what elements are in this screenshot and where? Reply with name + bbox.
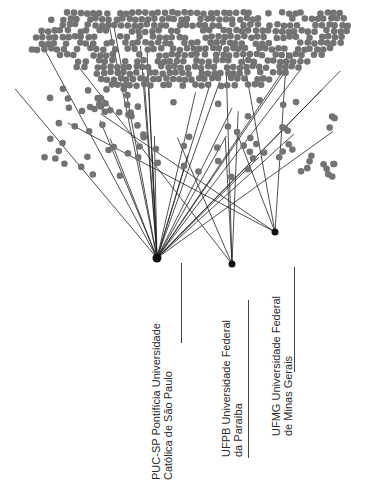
separator-ufmg	[294, 267, 295, 372]
label-ufmg-line2: de Minas Gerais	[282, 296, 294, 436]
network-diagram	[0, 0, 373, 492]
label-pucsp-line1: PUC-SP Pontifícia Universidade	[150, 323, 162, 480]
hub-node-ufmg	[272, 229, 279, 236]
publication-nodes	[29, 9, 351, 180]
label-ufpb: UFPB Universidade Federal da Paraíba	[220, 320, 244, 457]
hub-node-ufpb	[229, 261, 236, 268]
label-pucsp-line2: Católica de São Paulo	[162, 323, 174, 480]
label-ufmg-line1: UFMG Universidade Federal	[270, 296, 282, 436]
separator-ufpb	[248, 300, 249, 458]
label-ufpb-line2: da Paraíba	[232, 320, 244, 457]
hub-node-pucsp	[153, 254, 162, 263]
label-ufpb-line1: UFPB Universidade Federal	[220, 320, 232, 457]
label-pucsp: PUC-SP Pontifícia Universidade Católica …	[150, 323, 174, 480]
separator-pucsp	[181, 263, 182, 343]
label-ufmg: UFMG Universidade Federal de Minas Gerai…	[270, 296, 294, 436]
